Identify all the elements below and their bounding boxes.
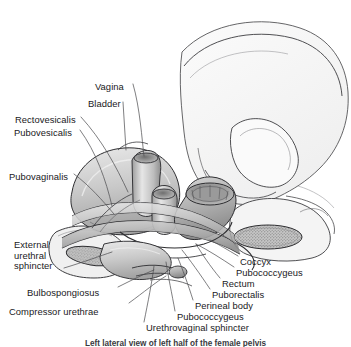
label-pubovaginalis: Pubovaginalis (9, 172, 68, 182)
label-line-1: External (14, 239, 49, 250)
label-line-3: sphincter (14, 260, 53, 271)
anatomy-figure: Vagina Bladder Rectovesicalis Pubovesica… (0, 0, 351, 347)
label-coccyx: Coccyx (240, 257, 271, 267)
label-pubococcygeus-lower: Pubococcygeus (177, 312, 244, 322)
figure-caption: Left lateral view of left half of the fe… (0, 339, 351, 347)
label-urethrovaginal-sphincter: Urethrovaginal sphincter (146, 323, 249, 333)
label-bulbospongiosus: Bulbospongiosus (27, 288, 99, 298)
label-puborectalis: Puborectalis (212, 290, 264, 300)
label-compressor-urethrae: Compressor urethrae (9, 307, 99, 317)
label-line-2: urethral (14, 250, 46, 261)
label-rectovesicalis: Rectovesicalis (15, 115, 76, 125)
label-external-urethral-sphincter: External urethral sphincter (14, 240, 72, 272)
label-perineal-body: Perineal body (195, 301, 253, 311)
label-vagina: Vagina (95, 82, 124, 92)
label-pubovesicalis: Pubovesicalis (14, 128, 72, 138)
label-rectum: Rectum (222, 279, 255, 289)
label-bladder: Bladder (88, 99, 121, 109)
coccyx-bone (230, 199, 331, 262)
label-pubococcygeus-upper: Pubococcygeus (236, 268, 303, 278)
